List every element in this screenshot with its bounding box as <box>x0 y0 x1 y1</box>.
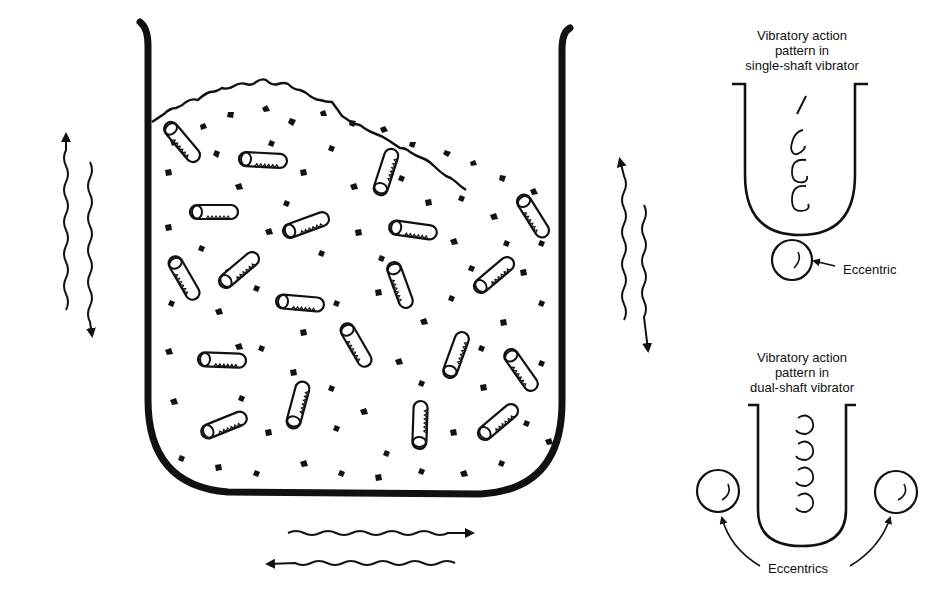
dual-shaft-caption: Vibratory action pattern in dual-shaft v… <box>740 350 864 395</box>
dual-caption-line1: Vibratory action <box>740 350 864 365</box>
arrow-up-right <box>620 160 626 320</box>
single-shaft-vessel <box>732 84 868 235</box>
cylindrical-parts <box>161 119 551 449</box>
arrow-down-left <box>88 162 92 335</box>
single-caption-line2: pattern in <box>740 43 864 58</box>
pattern-orbit-1 <box>791 130 805 154</box>
dual-caption-line3: dual-shaft vibrator <box>740 380 864 395</box>
vibratory-finishing-diagram: Vibratory action pattern in single-shaft… <box>0 0 951 615</box>
pattern-orbit-3 <box>792 186 809 211</box>
dual-shaft-vessel <box>748 405 856 546</box>
single-caption-line3: single-shaft vibrator <box>740 58 864 73</box>
arrow-left-bottom <box>268 561 455 565</box>
single-eccentric <box>772 240 835 280</box>
arrow-right-bottom <box>288 531 472 535</box>
eccentrics-label: Eccentrics <box>768 561 828 576</box>
dual-caption-line2: pattern in <box>740 365 864 380</box>
dual-pattern-orbits <box>796 415 813 512</box>
pattern-line <box>797 96 806 114</box>
eccentric-label: Eccentric <box>843 262 896 277</box>
single-shaft-caption: Vibratory action pattern in single-shaft… <box>740 28 864 73</box>
pattern-orbit-2 <box>792 160 807 183</box>
arrow-up-left <box>64 135 68 310</box>
dual-eccentrics <box>697 470 917 566</box>
media-surface <box>152 79 466 190</box>
arrow-down-right <box>642 205 648 350</box>
single-caption-line1: Vibratory action <box>740 28 864 43</box>
